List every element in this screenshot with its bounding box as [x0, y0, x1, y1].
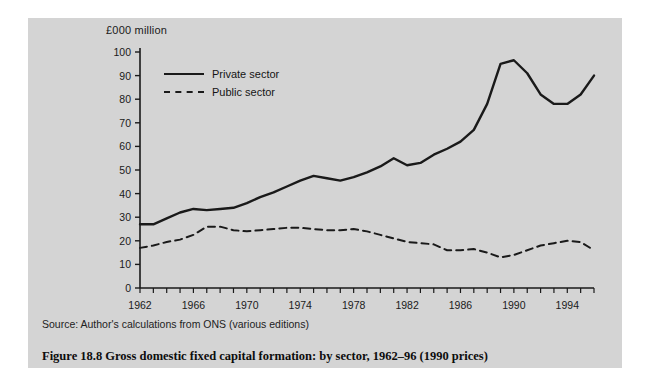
figure-panel: 0102030405060708090100 19621966197019741…	[28, 18, 622, 368]
svg-text:50: 50	[119, 164, 131, 176]
svg-text:1966: 1966	[182, 299, 206, 311]
svg-text:1978: 1978	[342, 299, 366, 311]
svg-text:1990: 1990	[502, 299, 526, 311]
svg-text:1982: 1982	[395, 299, 419, 311]
x-axis: 196219661970197419781982198619901994	[128, 288, 594, 311]
svg-text:1994: 1994	[556, 299, 580, 311]
svg-text:100: 100	[113, 46, 131, 58]
svg-text:60: 60	[119, 140, 131, 152]
y-axis-unit-label: £000 million	[106, 24, 167, 36]
legend-item-public: Public sector	[164, 84, 279, 99]
source-note: Source: Author's calculations from ONS (…	[42, 318, 309, 330]
svg-text:70: 70	[119, 117, 131, 129]
svg-text:80: 80	[119, 93, 131, 105]
figure-caption-bar: Figure 18.8 Gross domestic fixed capital…	[28, 344, 622, 368]
chart-plot-area: 0102030405060708090100 19621966197019741…	[28, 18, 622, 318]
svg-text:0: 0	[125, 282, 131, 294]
legend-item-private: Private sector	[164, 66, 279, 81]
series-line-public-sector	[140, 227, 594, 258]
figure-caption: Figure 18.8 Gross domestic fixed capital…	[28, 349, 488, 364]
svg-text:90: 90	[119, 70, 131, 82]
svg-text:40: 40	[119, 188, 131, 200]
legend-label-public: Public sector	[212, 86, 275, 98]
svg-text:10: 10	[119, 258, 131, 270]
svg-text:1974: 1974	[289, 299, 313, 311]
svg-text:30: 30	[119, 211, 131, 223]
svg-text:1986: 1986	[449, 299, 473, 311]
svg-text:1962: 1962	[128, 299, 152, 311]
legend-line-solid-icon	[164, 73, 204, 75]
line-chart-svg: 0102030405060708090100 19621966197019741…	[28, 18, 622, 318]
chart-legend: Private sector Public sector	[164, 66, 279, 102]
svg-text:20: 20	[119, 235, 131, 247]
y-axis: 0102030405060708090100	[113, 46, 140, 294]
legend-label-private: Private sector	[212, 68, 279, 80]
legend-line-dashed-icon	[164, 91, 204, 93]
svg-text:1970: 1970	[235, 299, 259, 311]
